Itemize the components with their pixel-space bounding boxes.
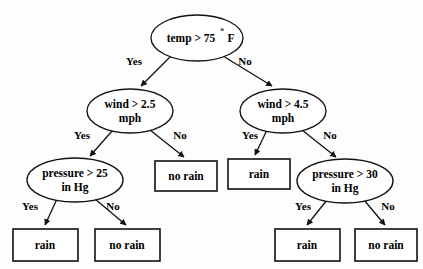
node-wind-45-label-line2: mph (272, 112, 295, 125)
edge-label-pressure-right-yes: Yes (295, 200, 312, 212)
leaf-no-rain-bottom-left[interactable]: no rain (95, 229, 160, 261)
root-node-unit: F (227, 32, 234, 44)
node-wind-25-label-line1: wind > 2.5 (105, 98, 156, 110)
edge-wind-left-yes (90, 130, 113, 156)
leaf-no-rain-bottom-left-label: no rain (109, 239, 145, 251)
leaf-no-rain-bottom-right-label: no rain (368, 239, 404, 251)
leaf-no-rain-mid-left[interactable]: no rain (155, 161, 217, 191)
edge-pressure-left-yes (45, 199, 57, 225)
leaf-rain-mid-right-label: rain (249, 168, 270, 180)
edge-label-pressure-left-no: No (106, 200, 120, 212)
node-pressure-30-label-line2: in Hg (331, 182, 358, 195)
leaf-no-rain-bottom-right[interactable]: no rain (355, 229, 417, 261)
node-wind-25-label-line2: mph (119, 112, 142, 125)
node-wind-45-label-line1: wind > 4.5 (258, 98, 309, 110)
leaf-rain-bottom-right-label: rain (297, 239, 318, 251)
edge-label-root-yes: Yes (126, 55, 143, 67)
edge-label-wind-right-no: No (323, 129, 337, 141)
degree-symbol-icon: o (220, 25, 223, 32)
leaf-rain-bottom-left-label: rain (35, 239, 56, 251)
root-node-label: temp > 75 (167, 32, 216, 45)
edge-root-yes (141, 56, 171, 86)
node-pressure-30-label-line1: pressure > 30 (312, 168, 378, 181)
leaf-rain-bottom-right[interactable]: rain (275, 229, 340, 261)
node-pressure-25-label-line2: in Hg (61, 181, 88, 194)
edge-label-root-no: No (238, 55, 252, 67)
edge-label-pressure-right-no: No (381, 200, 395, 212)
decision-tree-diagram: Yes No Yes No Yes No Yes No Yes No temp … (0, 0, 423, 269)
leaf-rain-mid-right[interactable]: rain (228, 159, 290, 189)
edge-label-pressure-left-yes: Yes (22, 200, 39, 212)
edge-label-wind-left-yes: Yes (74, 129, 91, 141)
node-wind-25[interactable]: wind > 2.5 mph (87, 89, 173, 133)
node-pressure-30[interactable]: pressure > 30 in Hg (297, 159, 393, 203)
edge-label-wind-left-no: No (173, 129, 187, 141)
edge-label-wind-right-yes: Yes (242, 129, 259, 141)
node-pressure-25-label-line1: pressure > 25 (42, 167, 108, 180)
leaf-rain-bottom-left[interactable]: rain (13, 229, 78, 261)
node-pressure-25[interactable]: pressure > 25 in Hg (27, 158, 123, 202)
node-wind-45[interactable]: wind > 4.5 mph (240, 89, 326, 133)
leaf-no-rain-mid-left-label: no rain (168, 170, 204, 182)
root-node-temp[interactable]: temp > 75 o F (151, 15, 243, 61)
